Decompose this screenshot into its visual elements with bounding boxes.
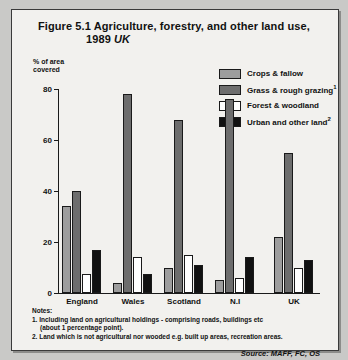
notes-heading: Notes: <box>32 307 332 316</box>
bar <box>113 283 122 293</box>
y-tick-mark <box>54 191 59 192</box>
bar <box>133 257 142 293</box>
bar <box>194 265 203 293</box>
note-1-line-1: 1. Including land on agricultural holdin… <box>32 316 332 325</box>
bar <box>294 268 303 294</box>
bar <box>304 260 313 293</box>
bar-group-england <box>62 191 101 293</box>
figure-panel: Figure 5.1 Agriculture, forestry, and ot… <box>11 9 339 351</box>
figure-notes: Notes: 1. Including land on agricultural… <box>32 307 332 341</box>
legend-item-crops-fallow: Crops & fallow <box>219 66 337 81</box>
y-axis-label: % of area covered <box>33 58 64 74</box>
bar <box>235 278 244 293</box>
bar <box>72 191 81 293</box>
figure-title-year: 1989 <box>86 33 111 45</box>
y-tick-mark <box>54 242 59 243</box>
bar <box>245 257 254 293</box>
y-tick-mark <box>54 89 59 90</box>
bar <box>62 206 71 293</box>
bar <box>123 94 132 293</box>
bar-group-ni <box>215 99 254 293</box>
category-label-uk: UK <box>288 297 300 306</box>
y-tick-label: 80 <box>43 85 52 94</box>
bar <box>82 274 91 293</box>
note-1-line-2: (about 1 percentage point). <box>32 324 332 333</box>
bar <box>284 153 293 293</box>
bar <box>174 120 183 293</box>
y-tick-label: 0 <box>48 289 52 298</box>
bar <box>92 250 101 293</box>
y-tick-label: 40 <box>43 187 52 196</box>
category-label-wales: Wales <box>122 297 145 306</box>
y-tick-mark <box>54 140 59 141</box>
bar <box>164 268 173 294</box>
legend-label-crops-fallow: Crops & fallow <box>247 69 303 78</box>
figure-title-region: UK <box>114 33 130 45</box>
y-tick-label: 60 <box>43 136 52 145</box>
bar <box>184 255 193 293</box>
bar <box>274 237 283 293</box>
bar-group-wales <box>113 94 152 293</box>
bar-group-scotland <box>164 120 203 293</box>
bar-group-uk <box>274 153 313 293</box>
y-tick-label: 20 <box>43 238 52 247</box>
note-2: 2. Land which is not agricultural nor wo… <box>32 333 332 342</box>
category-label-ni: N.I <box>230 297 240 306</box>
bar <box>215 280 224 293</box>
category-label-england: England <box>66 297 98 306</box>
x-axis-line <box>58 293 320 294</box>
y-tick-mark <box>54 293 59 294</box>
figure-title: Figure 5.1 Agriculture, forestry, and ot… <box>38 20 328 46</box>
chart-plot-area: 020406080 EnglandWalesScotlandN.IUK <box>58 89 320 294</box>
bar <box>143 274 152 293</box>
legend-swatch-crops-fallow <box>219 69 241 79</box>
category-label-scotland: Scotland <box>167 297 201 306</box>
figure-title-line2: 1989 UK <box>38 33 328 46</box>
figure-title-line1: Figure 5.1 Agriculture, forestry, and ot… <box>38 20 328 33</box>
bar <box>225 99 234 293</box>
figure-source: Source: MAFF, FC, OS <box>241 349 320 358</box>
